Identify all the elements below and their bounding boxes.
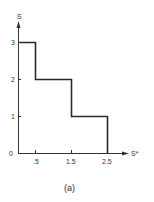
y-tick-label-1: 1 [11,113,15,120]
x-tick-label-2-5: 2.5 [102,158,112,165]
x-tick-label-0-5: .5 [33,158,39,165]
x-axis-label: S* [131,150,139,157]
y-tick-label-2: 2 [11,76,15,83]
origin-label: 0 [9,150,13,157]
y-tick-label-3: 3 [11,39,15,46]
y-axis-arrow-icon [17,21,21,28]
step-chart: S S* 0 1 2 3 .5 1.5 2.5 (a) [0,0,154,202]
x-axis-arrow-icon [122,152,129,156]
y-axis-label: S [17,13,22,20]
figure-caption: (a) [64,183,75,193]
step-series [20,43,108,154]
x-tick-label-1-5: 1.5 [66,158,76,165]
